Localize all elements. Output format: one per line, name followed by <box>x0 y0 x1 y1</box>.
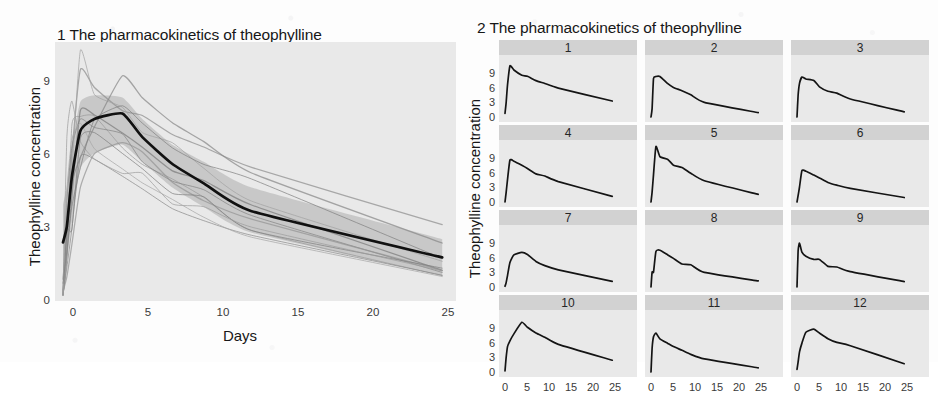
facet-y-tick-4-0: 0 <box>473 196 495 208</box>
figure-1-x-tick-5: 5 <box>137 306 159 318</box>
facet-strip-10: 10 <box>499 295 637 310</box>
facet-curve-8 <box>651 250 758 287</box>
facet-x-tick-10-15: 15 <box>560 381 582 393</box>
facet-strip-6: 6 <box>791 125 929 140</box>
facet-strip-4: 4 <box>499 125 637 140</box>
facet-strip-label: 2 <box>711 42 718 54</box>
figure-1-y-tick-3: 3 <box>28 221 50 233</box>
facet-plot-3 <box>791 55 929 122</box>
facet-strip-label: 6 <box>857 127 864 139</box>
facet-x-tick-12-5: 5 <box>808 381 830 393</box>
facet-curve-9 <box>797 243 904 287</box>
facet-strip-7: 7 <box>499 210 637 225</box>
facet-curve-12 <box>797 329 904 369</box>
facet-strip-label: 11 <box>708 297 720 309</box>
facet-strip-label: 9 <box>857 212 864 224</box>
facet-x-tick-12-20: 20 <box>874 381 896 393</box>
facet-x-tick-11-20: 20 <box>728 381 750 393</box>
figure-1-y-tick-0: 0 <box>28 294 50 306</box>
facet-plot-2 <box>645 55 783 122</box>
facet-strip-9: 9 <box>791 210 929 225</box>
facet-strip-label: 3 <box>857 42 864 54</box>
facet-x-tick-12-10: 10 <box>830 381 852 393</box>
facet-y-tick-7-6: 6 <box>473 252 495 264</box>
facet-y-tick-7-3: 3 <box>473 266 495 278</box>
figure-2-title: 2 The pharmacokinetics of theophylline <box>477 19 742 37</box>
figure-1-x-tick-25: 25 <box>437 306 459 318</box>
facet-y-tick-10-9: 9 <box>473 322 495 334</box>
facet-x-tick-11-15: 15 <box>706 381 728 393</box>
facet-x-tick-10-5: 5 <box>516 381 538 393</box>
facet-strip-label: 4 <box>565 127 572 139</box>
facet-strip-label: 8 <box>711 212 718 224</box>
figure-1-x-tick-10: 10 <box>212 306 234 318</box>
facet-curve-6 <box>797 170 904 202</box>
facet-x-tick-10-10: 10 <box>538 381 560 393</box>
facet-x-tick-12-25: 25 <box>896 381 918 393</box>
figure-1-x-tick-15: 15 <box>287 306 309 318</box>
figure-1-confidence-ribbon <box>63 95 442 276</box>
facet-strip-2: 2 <box>645 40 783 55</box>
figure-1-spaghetti-plot: 1 The pharmacokinetics of theophylline T… <box>0 0 466 362</box>
facet-y-tick-1-3: 3 <box>473 96 495 108</box>
figure-1-y-tick-6: 6 <box>28 148 50 160</box>
figure-1-plot-area <box>55 42 456 301</box>
facet-curve-5 <box>651 146 758 202</box>
facet-plot-9 <box>791 225 929 292</box>
facet-plot-12 <box>791 310 929 377</box>
facet-y-tick-4-6: 6 <box>473 167 495 179</box>
facet-strip-label: 12 <box>853 297 866 309</box>
facet-curve-10 <box>505 322 612 371</box>
facet-plot-10 <box>499 310 637 377</box>
facet-x-tick-11-0: 0 <box>640 381 662 393</box>
facet-y-tick-4-9: 9 <box>473 152 495 164</box>
facet-x-tick-11-10: 10 <box>684 381 706 393</box>
facet-y-tick-7-0: 0 <box>473 281 495 293</box>
figure-1-x-tick-20: 20 <box>362 306 384 318</box>
facet-y-tick-1-0: 0 <box>473 111 495 123</box>
facet-strip-label: 5 <box>711 127 718 139</box>
facet-y-tick-4-3: 3 <box>473 181 495 193</box>
facet-curve-7 <box>505 252 612 286</box>
facet-x-tick-12-0: 0 <box>786 381 808 393</box>
facet-y-tick-1-6: 6 <box>473 82 495 94</box>
figure-1-y-axis-title: Theophylline concentration <box>26 77 43 277</box>
facet-strip-label: 1 <box>565 42 572 54</box>
facet-strip-8: 8 <box>645 210 783 225</box>
facet-plot-8 <box>645 225 783 292</box>
figure-1-x-tick-0: 0 <box>62 306 84 318</box>
facet-y-tick-10-0: 0 <box>473 366 495 378</box>
facet-plot-11 <box>645 310 783 377</box>
facet-plot-4 <box>499 140 637 207</box>
facet-plot-7 <box>499 225 637 292</box>
facet-x-tick-11-5: 5 <box>662 381 684 393</box>
facet-plot-6 <box>791 140 929 207</box>
facet-plot-1 <box>499 55 637 122</box>
facet-curve-1 <box>505 66 612 114</box>
facet-curve-11 <box>651 333 758 372</box>
facet-x-tick-10-25: 25 <box>604 381 626 393</box>
facet-strip-label: 7 <box>565 212 572 224</box>
figure-1-x-axis-title: Days <box>190 327 290 344</box>
facet-strip-1: 1 <box>499 40 637 55</box>
facet-x-tick-11-25: 25 <box>750 381 772 393</box>
facet-y-tick-10-3: 3 <box>473 351 495 363</box>
facet-strip-5: 5 <box>645 125 783 140</box>
facet-curve-2 <box>651 76 758 117</box>
facet-x-tick-12-15: 15 <box>852 381 874 393</box>
facet-y-tick-10-6: 6 <box>473 337 495 349</box>
facet-strip-label: 10 <box>561 297 574 309</box>
facet-plot-5 <box>645 140 783 207</box>
figure-2-facet-grid: 2 The pharmacokinetics of theophylline T… <box>466 0 938 362</box>
facet-x-tick-10-20: 20 <box>582 381 604 393</box>
facet-curve-3 <box>797 77 904 117</box>
facet-y-tick-7-9: 9 <box>473 237 495 249</box>
facet-strip-3: 3 <box>791 40 929 55</box>
facet-y-tick-1-9: 9 <box>473 67 495 79</box>
facet-strip-12: 12 <box>791 295 929 310</box>
facet-curve-4 <box>505 160 612 202</box>
figure-1-y-tick-9: 9 <box>28 75 50 87</box>
facet-strip-11: 11 <box>645 295 783 310</box>
facet-x-tick-10-0: 0 <box>494 381 516 393</box>
